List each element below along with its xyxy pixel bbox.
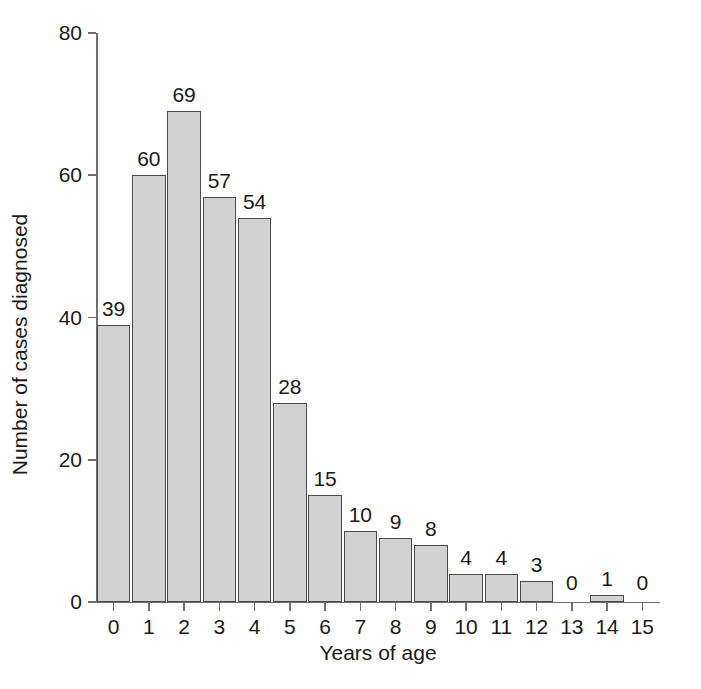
bar <box>344 531 377 602</box>
x-axis-tick <box>571 602 573 611</box>
bar-value-label: 4 <box>496 547 508 568</box>
x-axis-tick <box>183 602 185 611</box>
x-axis-tick-label: 7 <box>355 615 367 638</box>
x-axis-tick-label: 6 <box>319 615 331 638</box>
x-axis-tick-label: 2 <box>178 615 190 638</box>
bar-value-label: 9 <box>390 511 402 532</box>
x-axis-tick-label: 10 <box>454 615 477 638</box>
x-axis-tick <box>324 602 326 611</box>
bar-value-label: 3 <box>531 554 543 575</box>
bar-value-label: 69 <box>172 84 195 105</box>
bar-value-label: 8 <box>425 518 437 539</box>
bar <box>308 495 341 602</box>
bar <box>167 111 200 602</box>
x-axis-tick <box>395 602 397 611</box>
bar-value-label: 1 <box>601 568 613 589</box>
x-axis-tick <box>219 602 221 611</box>
x-axis-tick <box>501 602 503 611</box>
bar-value-label: 28 <box>278 376 301 397</box>
bar-chart: 020406080 0123456789101112131415 3960695… <box>0 0 701 689</box>
y-axis-tick <box>88 601 96 603</box>
bar <box>238 218 271 602</box>
bar-value-label: 57 <box>208 170 231 191</box>
x-axis-tick-label: 14 <box>595 615 618 638</box>
x-axis-tick-label: 4 <box>249 615 261 638</box>
x-axis-tick-label: 1 <box>143 615 155 638</box>
bar <box>273 403 306 602</box>
x-axis-tick <box>606 602 608 611</box>
x-axis-tick <box>254 602 256 611</box>
bar <box>414 545 447 602</box>
y-axis-tick <box>88 317 96 319</box>
bar <box>203 197 236 602</box>
bar <box>449 574 482 602</box>
bar-value-label: 0 <box>566 572 578 593</box>
y-axis-tick <box>88 459 96 461</box>
x-axis-tick-label: 8 <box>390 615 402 638</box>
bar <box>132 175 165 602</box>
x-axis-tick <box>148 602 150 611</box>
x-axis-tick-label: 5 <box>284 615 296 638</box>
bar <box>379 538 412 602</box>
x-axis-tick-label: 15 <box>631 615 654 638</box>
bar-value-label: 4 <box>460 547 472 568</box>
x-axis-tick <box>536 602 538 611</box>
bar-value-label: 39 <box>102 298 125 319</box>
y-axis-tick <box>88 174 96 176</box>
bar <box>97 325 130 602</box>
x-axis-tick-label: 0 <box>108 615 120 638</box>
bar <box>485 574 518 602</box>
y-axis-tick <box>88 32 96 34</box>
bar-value-label: 0 <box>637 572 649 593</box>
x-axis-tick <box>360 602 362 611</box>
x-axis-tick-label: 12 <box>525 615 548 638</box>
x-axis-tick <box>289 602 291 611</box>
x-axis-tick <box>430 602 432 611</box>
y-axis-title: Number of cases diagnosed <box>40 0 80 689</box>
x-axis-title: Years of age <box>96 641 660 665</box>
x-axis-tick-label: 11 <box>490 615 512 638</box>
bar-value-label: 15 <box>313 468 336 489</box>
bar <box>590 595 623 602</box>
x-axis-tick <box>465 602 467 611</box>
x-axis-tick-label: 3 <box>214 615 226 638</box>
x-axis-tick <box>642 602 644 611</box>
bar-value-label: 54 <box>243 191 266 212</box>
x-axis-tick-label: 9 <box>425 615 437 638</box>
x-axis-tick-label: 13 <box>560 615 583 638</box>
x-axis-tick <box>113 602 115 611</box>
bar-value-label: 60 <box>137 148 160 169</box>
bar <box>520 581 553 602</box>
bar-value-label: 10 <box>349 504 372 525</box>
y-axis-title-text: Number of cases diagnosed <box>8 214 32 476</box>
